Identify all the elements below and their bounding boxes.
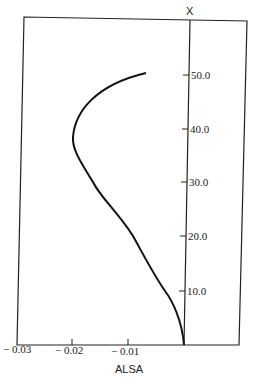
svg-text:10.0: 10.0	[187, 285, 207, 297]
svg-text:30.0: 30.0	[189, 176, 209, 188]
x-tick-labels: − 0.03 − 0.02 − 0.01	[3, 343, 139, 357]
svg-text:− 0.03: − 0.03	[3, 343, 32, 355]
y-tick-labels: 50.0 40.0 30.0 20.0 10.0	[187, 69, 211, 297]
x-axis-title: ALSA	[115, 363, 144, 375]
svg-text:20.0: 20.0	[188, 230, 208, 242]
svg-text:40.0: 40.0	[190, 123, 210, 135]
svg-text:50.0: 50.0	[191, 69, 211, 81]
data-curve	[73, 73, 184, 345]
svg-text:− 0.01: − 0.01	[111, 345, 139, 357]
svg-text:− 0.02: − 0.02	[55, 344, 83, 356]
y-axis-title: X	[186, 5, 194, 17]
plot-frame	[17, 17, 247, 345]
chart: 50.0 40.0 30.0 20.0 10.0 X − 0.03 − 0.02…	[0, 0, 253, 384]
